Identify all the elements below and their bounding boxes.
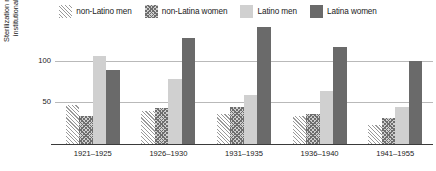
plot-area: 50100 1921–19251926–19301931–19351936–19… (55, 24, 433, 145)
chart-figure: non-Latino mennon-Latina womenLatino men… (0, 0, 436, 171)
legend-item-2[interactable]: Latino men (240, 5, 297, 18)
legend-swatch-2 (240, 5, 253, 18)
x-tick-label-0: 1921–1925 (55, 149, 131, 158)
bar-2-1[interactable] (230, 107, 244, 144)
bar-group-2: 1931–1935 (206, 24, 282, 144)
chart-legend: non-Latino mennon-Latina womenLatino men… (0, 5, 436, 18)
x-tick-label-1: 1926–1930 (131, 149, 207, 158)
bar-0-0[interactable] (66, 105, 80, 144)
legend-swatch-0 (59, 5, 72, 18)
legend-label-0: non-Latino men (76, 7, 132, 16)
y-tick-label-100: 100 (38, 57, 51, 65)
legend-item-0[interactable]: non-Latino men (59, 5, 132, 18)
bar-group-0: 1921–1925 (55, 24, 131, 144)
legend-item-3[interactable]: Latina women (310, 5, 377, 18)
bar-3-1[interactable] (306, 114, 320, 144)
bar-1-0[interactable] (141, 111, 155, 144)
x-tick-label-2: 1931–1935 (206, 149, 282, 158)
bar-4-0[interactable] (368, 125, 382, 144)
bar-group-3: 1936–1940 (282, 24, 358, 144)
bar-2-3[interactable] (257, 27, 271, 144)
x-tick-label-4: 1941–1955 (357, 149, 433, 158)
y-tick-label-50: 50 (43, 98, 51, 106)
bar-0-3[interactable] (106, 70, 120, 144)
bar-group-4: 1941–1955 (357, 24, 433, 144)
legend-label-3: Latina women (327, 7, 377, 16)
bar-group-1: 1926–1930 (131, 24, 207, 144)
legend-item-1[interactable]: non-Latina women (145, 5, 228, 18)
x-axis-line (51, 144, 433, 145)
bar-groups: 1921–19251926–19301931–19351936–19401941… (55, 24, 433, 144)
legend-swatch-3 (310, 5, 323, 18)
bar-3-2[interactable] (320, 91, 334, 144)
legend-swatch-1 (145, 5, 158, 18)
bar-0-2[interactable] (93, 56, 107, 144)
bar-1-2[interactable] (168, 79, 182, 144)
x-tick-label-3: 1936–1940 (282, 149, 358, 158)
bar-4-2[interactable] (395, 107, 409, 144)
legend-label-1: non-Latina women (162, 7, 228, 16)
bar-0-1[interactable] (79, 116, 93, 144)
bar-2-0[interactable] (217, 114, 231, 144)
bar-4-3[interactable] (409, 61, 423, 144)
bar-1-3[interactable] (182, 38, 196, 144)
bar-4-1[interactable] (382, 118, 396, 144)
bar-2-2[interactable] (244, 95, 258, 144)
bar-1-1[interactable] (155, 108, 169, 144)
bar-3-3[interactable] (333, 47, 347, 144)
bar-3-0[interactable] (293, 116, 307, 144)
legend-label-2: Latino men (257, 7, 297, 16)
